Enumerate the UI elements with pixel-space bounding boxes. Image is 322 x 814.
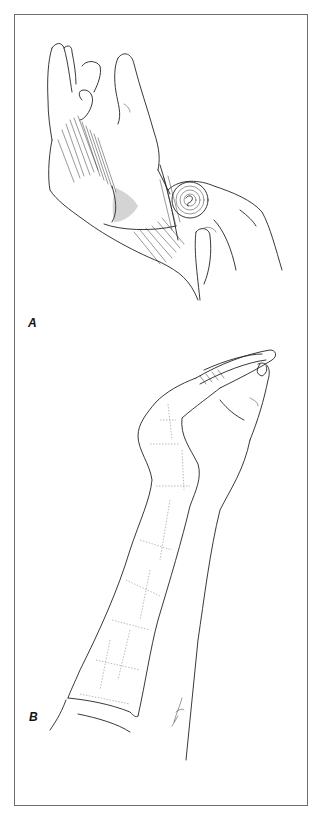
panel-a: A [0,0,322,340]
panel-label-b: B [29,710,38,724]
hand-bandage-illustration [0,0,322,340]
panel-b: B [0,340,322,814]
panel-label-a: A [28,316,37,330]
forearm-cast-illustration [0,340,322,814]
